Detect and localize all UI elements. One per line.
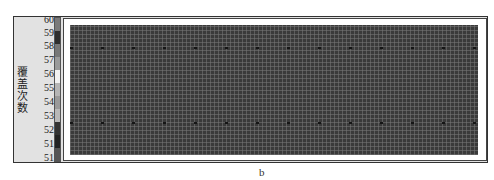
- figure-caption: b: [259, 166, 265, 178]
- colorbar-band: [55, 135, 60, 148]
- colorbar-band: [55, 96, 60, 109]
- colorbar-band: [55, 122, 60, 135]
- tick-label: 51: [37, 153, 54, 163]
- tick-label: 57: [37, 55, 54, 65]
- tick-label: 58: [37, 41, 54, 51]
- tick-label: 60: [37, 15, 54, 25]
- colorbar-band: [55, 31, 60, 44]
- tick-label: 51: [37, 139, 54, 149]
- colorbar-band: [55, 148, 60, 161]
- tick-label: 54: [37, 97, 54, 107]
- tick-label: 52: [37, 125, 54, 135]
- colorbar-band: [55, 57, 60, 70]
- heatmap-dot-row: [70, 122, 478, 124]
- tick-label: 56: [37, 69, 54, 79]
- tick-label: 53: [37, 111, 54, 121]
- colorbar-ticks: 60 59 58 57 56 55 54 53 52 51 51: [37, 17, 54, 162]
- colorbar-band: [55, 18, 60, 31]
- colorbar-band: [55, 109, 60, 122]
- coverage-heatmap: [70, 25, 478, 155]
- heatmap-dot-row: [70, 47, 478, 49]
- tick-label: 55: [37, 83, 54, 93]
- colorbar-label: 覆盖次数: [14, 66, 30, 122]
- colorbar-band: [55, 83, 60, 96]
- colorbar-band: [55, 44, 60, 57]
- colorbar: [54, 17, 61, 162]
- colorbar-band: [55, 70, 60, 83]
- tick-label: 59: [37, 28, 54, 38]
